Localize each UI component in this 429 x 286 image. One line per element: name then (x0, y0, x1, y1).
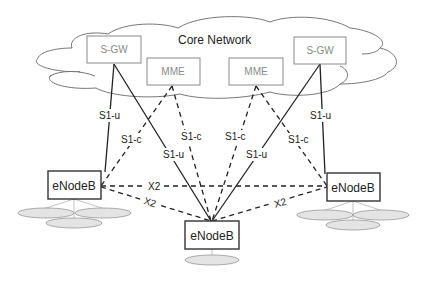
cell-center-1 (185, 255, 239, 265)
label-s1c-left-outer: S1-c (121, 134, 142, 145)
enodeb-left: eNodeB (18, 171, 131, 228)
label-s1c-right-inner: S1-c (225, 131, 246, 142)
label-s1u-right-outer: S1-u (310, 110, 331, 121)
enodeb-center-label: eNodeB (190, 229, 233, 243)
label-s1u-left-outer: S1-u (99, 110, 120, 121)
mme-right-node: MME (229, 58, 283, 85)
sgw-right-label: S-GW (306, 45, 334, 56)
sgw-left-label: S-GW (100, 44, 128, 55)
cell-right-3 (326, 220, 380, 230)
cell-left-3 (46, 218, 102, 228)
label-x2-top: X2 (148, 181, 161, 192)
enodeb-center: eNodeB (185, 221, 239, 265)
label-s1u-left-inner: S1-u (163, 149, 184, 160)
cell-right-1 (297, 210, 353, 220)
sgw-left-node: S-GW (87, 36, 141, 63)
label-s1u-right-inner: S1-u (246, 149, 267, 160)
cell-left-1 (18, 208, 74, 218)
label-s1c-right-outer: S1-c (288, 134, 309, 145)
interface-labels: S1-u S1-c S1-c S1-u S1-c S1-u S1-c S1-u … (97, 109, 332, 211)
sgw-right-node: S-GW (294, 37, 346, 64)
mme-right-label: MME (244, 66, 268, 77)
cell-right-2 (353, 210, 409, 220)
mme-left-label: MME (161, 66, 185, 77)
label-s1c-left-inner: S1-c (181, 131, 202, 142)
enodeb-left-label: eNodeB (52, 179, 95, 193)
mme-left-node: MME (147, 58, 200, 85)
s1c-links (101, 86, 327, 221)
enodeb-right: eNodeB (297, 173, 409, 230)
lte-architecture-diagram: Core Network S-GW MME MME S-GW (0, 0, 429, 286)
cell-left-2 (75, 208, 131, 218)
cloud-title: Core Network (178, 33, 252, 47)
enodeb-right-label: eNodeB (331, 181, 374, 195)
